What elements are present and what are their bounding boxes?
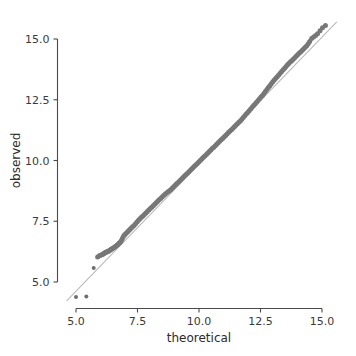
qq-plot-canvas: 5.07.510.012.515.0 observed 5.07.510.012… [0, 0, 356, 356]
x-tick-label: 15.0 [310, 315, 335, 328]
qq-plot-figure: 5.07.510.012.515.0 observed 5.07.510.012… [0, 0, 356, 356]
data-point [84, 295, 88, 299]
x-axis-group: 5.07.510.012.515.0 theoretical [67, 309, 334, 345]
data-point [323, 23, 328, 28]
y-axis-title: observed [9, 133, 23, 189]
x-tick-label: 5.0 [67, 315, 85, 328]
x-tick-label: 12.5 [248, 315, 273, 328]
y-axis-ticks: 5.07.510.012.515.0 [25, 33, 58, 289]
y-tick-label: 7.5 [32, 215, 50, 228]
x-tick-label: 10.0 [187, 315, 212, 328]
y-tick-label: 15.0 [25, 33, 50, 46]
x-axis-title: theoretical [167, 331, 231, 345]
y-tick-label: 12.5 [25, 94, 50, 107]
data-point [74, 295, 78, 299]
y-axis-group: 5.07.510.012.515.0 observed [9, 33, 58, 289]
y-tick-label: 10.0 [25, 155, 50, 168]
data-point [92, 266, 96, 270]
x-tick-label: 7.5 [129, 315, 147, 328]
scatter-points-group [74, 23, 328, 299]
x-axis-ticks: 5.07.510.012.515.0 [67, 309, 334, 328]
y-tick-label: 5.0 [32, 276, 50, 289]
